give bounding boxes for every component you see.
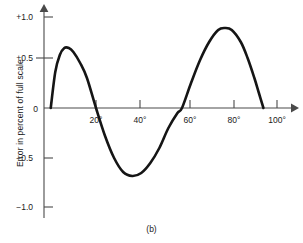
error-curve-chart: +1.0 +0.5 0 −0.5 −1.0 20° 40° 60° 80° 10…: [0, 0, 303, 243]
x-tick-label-4: 80°: [228, 115, 241, 125]
x-tick-label-2: 40°: [134, 115, 147, 125]
y-axis-title: Error in percent of full scale: [15, 23, 25, 203]
y-tick-label-3: 0: [33, 104, 38, 114]
error-curve-path: [51, 28, 264, 176]
figure-caption: (b): [0, 224, 303, 234]
x-tick-label-5: 100°: [268, 115, 286, 125]
figure-container: Error in percent of full scale +1.0 +0.5…: [0, 0, 303, 243]
x-axis-arrow-icon: [291, 104, 299, 113]
y-tick-label-5: −1.0: [16, 202, 33, 212]
y-axis-arrow-icon: [40, 4, 49, 12]
x-tick-label-3: 60°: [184, 115, 197, 125]
y-tick-label-1: +1.0: [16, 12, 33, 22]
